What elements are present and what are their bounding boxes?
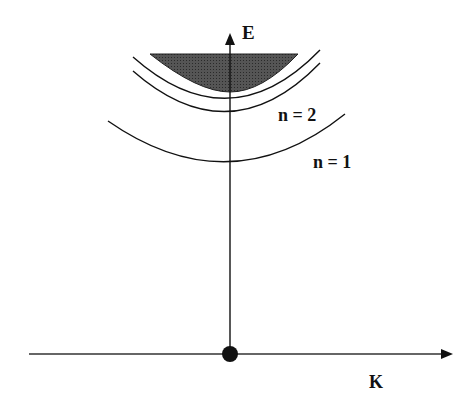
continuum-shaded-region [150, 54, 298, 92]
energy-axis-arrow-icon [225, 33, 235, 45]
axis-label-e: E [242, 22, 255, 43]
momentum-axis-arrow-icon [441, 349, 453, 359]
dispersion-diagram: E K n = 2 n = 1 [0, 0, 475, 399]
band-label-n2: n = 2 [278, 105, 316, 125]
axis-label-k: K [369, 372, 383, 392]
band-label-n1: n = 1 [313, 152, 351, 172]
origin-dot-icon [222, 346, 238, 362]
